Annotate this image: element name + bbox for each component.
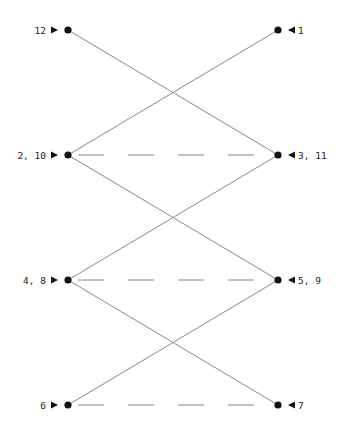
node-L2: 2, 10 [17,150,71,161]
arrow-right-icon [51,277,58,284]
node-R3: 5, 9 [274,275,321,286]
node-R1: 1 [274,25,304,36]
diagram-canvas: 1212, 103, 114, 85, 967 [0,0,342,430]
arrow-left-icon [288,277,295,284]
arrow-left-icon [288,27,295,34]
node-label: 1 [298,25,304,36]
node-label: 4, 8 [23,275,46,286]
node-R2: 3, 11 [274,150,326,161]
node-label: 3, 11 [298,150,327,161]
arrow-left-icon [288,402,295,409]
arrow-right-icon [51,152,58,159]
node-dot [64,151,71,158]
node-dot [274,26,281,33]
edges-group [68,30,278,405]
node-L3: 4, 8 [23,275,71,286]
node-L1: 12 [35,25,72,36]
node-dot [64,26,71,33]
node-label: 6 [40,400,46,411]
node-R4: 7 [274,400,303,411]
node-dot [64,401,71,408]
node-label: 12 [35,25,46,36]
node-dot [64,276,71,283]
node-dot [274,151,281,158]
arrow-right-icon [51,402,58,409]
node-label: 5, 9 [298,275,321,286]
node-dot [274,401,281,408]
arrow-left-icon [288,152,295,159]
node-dot [274,276,281,283]
node-label: 2, 10 [17,150,46,161]
arrow-right-icon [51,27,58,34]
node-L4: 6 [40,400,71,411]
node-label: 7 [298,400,304,411]
